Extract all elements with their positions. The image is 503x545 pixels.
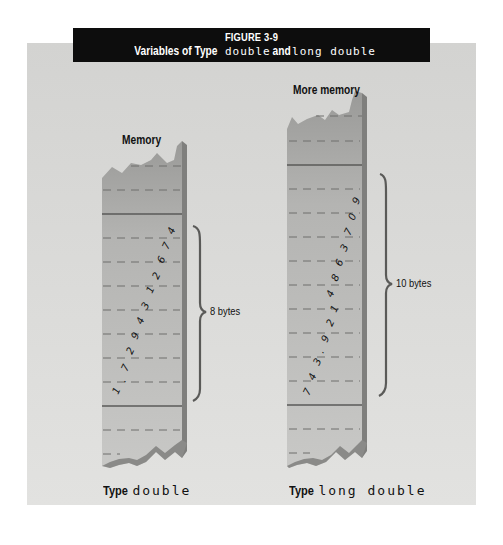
- size-label-8-bytes: 8 bytes: [210, 305, 240, 317]
- caption-long-double-code: long double: [318, 483, 426, 498]
- caption-type-double: Type double: [103, 483, 191, 498]
- more-memory-label: More memory: [293, 83, 360, 97]
- memory-column-long-double: 7 4 3 . 9 2 1 4 8 6 3 7 0 9: [287, 91, 392, 468]
- caption-double-code: double: [132, 483, 191, 498]
- memory-column-double: 1 . 7 2 9 4 3 1 2 6 7 4: [102, 141, 206, 468]
- size-label-10-bytes: 10 bytes: [396, 277, 431, 289]
- caption-type-long-double: Type long double: [289, 483, 426, 498]
- memory-diagram: 1 . 7 2 9 4 3 1 2 6 7 4: [0, 0, 503, 545]
- memory-label: Memory: [122, 133, 161, 147]
